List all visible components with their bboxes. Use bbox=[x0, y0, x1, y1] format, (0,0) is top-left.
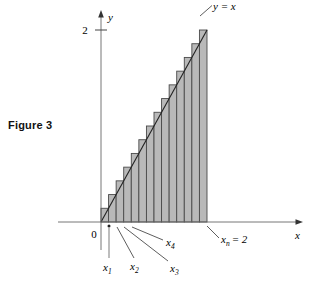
figure-container: Figure 3 y x 2 0 y = x x1 bbox=[0, 0, 312, 287]
riemann-sum-figure: y x 2 0 y = x x1 x2 x3 x4 bbox=[0, 0, 312, 287]
riemann-rectangle bbox=[146, 126, 154, 222]
x1-label: x1 bbox=[102, 261, 112, 276]
x4-leader bbox=[132, 227, 163, 240]
curve-label: y = x bbox=[212, 0, 236, 12]
x-axis-label: x bbox=[294, 229, 300, 241]
riemann-rectangle bbox=[192, 44, 200, 222]
x2-leader bbox=[117, 227, 134, 258]
riemann-rectangle bbox=[131, 153, 139, 222]
x3-leader bbox=[124, 227, 168, 261]
riemann-rectangle bbox=[184, 57, 192, 222]
curve-label-leader bbox=[200, 6, 212, 17]
xn-label: xn= 2 bbox=[220, 233, 248, 248]
y-tick-label-2: 2 bbox=[82, 24, 88, 36]
riemann-rectangle bbox=[162, 99, 170, 222]
riemann-rectangle bbox=[199, 30, 207, 222]
riemann-rectangle bbox=[169, 85, 177, 222]
riemann-rectangle bbox=[177, 71, 185, 222]
riemann-rectangle bbox=[109, 195, 117, 222]
riemann-rectangle bbox=[154, 112, 162, 222]
x3-label: x3 bbox=[169, 262, 179, 277]
y-axis-arrowhead bbox=[98, 10, 104, 18]
origin-label: 0 bbox=[91, 228, 97, 240]
x1-marker-dot bbox=[108, 225, 111, 228]
x-axis-arrowhead bbox=[296, 219, 304, 225]
xn-leader bbox=[207, 226, 219, 238]
riemann-rectangle bbox=[124, 167, 132, 222]
y-axis-label: y bbox=[107, 11, 113, 23]
x2-label: x2 bbox=[129, 260, 139, 275]
x4-label: x4 bbox=[165, 236, 175, 251]
